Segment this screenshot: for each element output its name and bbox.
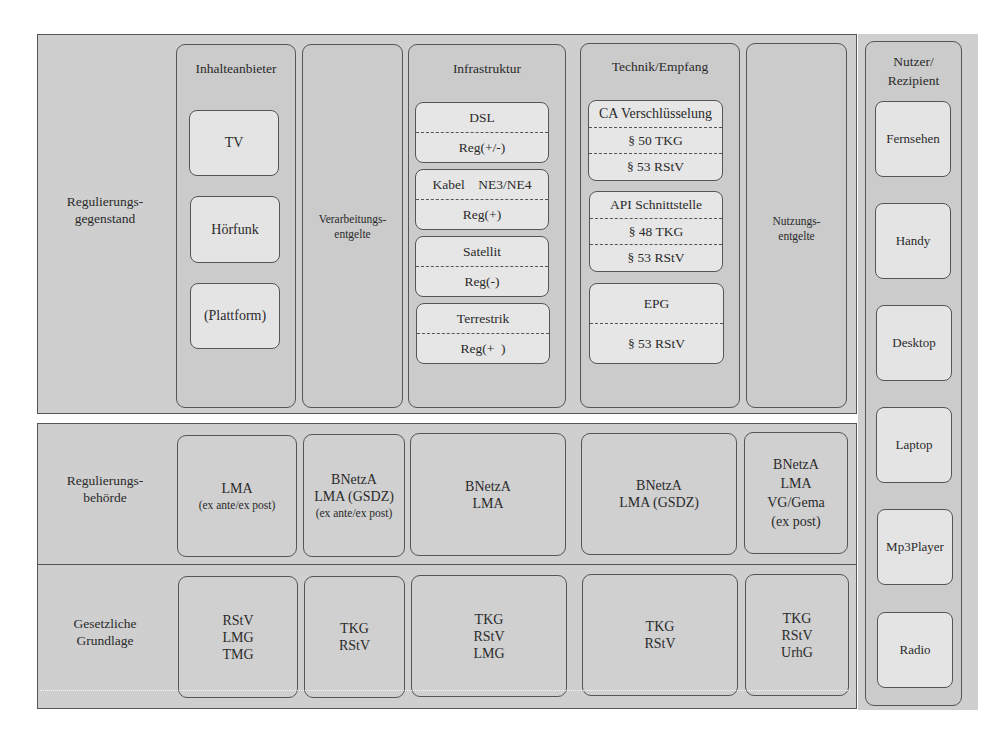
law-line: RStV	[339, 637, 370, 654]
infra-box-terrestrik: Terrestrik Reg(+ )	[416, 303, 550, 364]
law-tile-verarbeitung: TKG RStV	[304, 576, 405, 698]
device-box-mp3player: Mp3Player	[877, 509, 953, 585]
law-tile-nutzung: TKG RStV UrhG	[745, 574, 849, 696]
law-line: TKG	[646, 618, 675, 635]
column-title-technik-empfang: Technik/Empfang	[581, 59, 739, 75]
decorative-dotted-line	[40, 690, 850, 691]
authority-line: LMA	[221, 480, 252, 497]
tech-reference: § 53 RStV	[589, 153, 722, 180]
authority-line: BNetzA	[465, 478, 511, 495]
device-box-fernsehen: Fernsehen	[875, 101, 951, 177]
content-box-tv: TV	[189, 110, 279, 176]
tech-box-api-schnittstelle: API Schnittstelle § 48 TKG § 53 RStV	[589, 191, 723, 272]
authority-line: LMA (GSDZ)	[314, 488, 394, 505]
infra-name: DSL	[416, 103, 548, 132]
tech-reference: § 53 RStV	[590, 244, 722, 271]
authority-line: BNetzA	[331, 471, 377, 488]
authority-line: BNetzA	[773, 455, 819, 474]
tech-reference: § 53 RStV	[590, 323, 723, 363]
column-nutzungsentgelte: Nutzungs- entgelte	[746, 43, 847, 408]
column-title-infrastruktur: Infrastruktur	[409, 61, 565, 77]
row-label-regulierungsbehoerde: Regulierungs- behörde	[40, 464, 170, 514]
authority-tile-verarbeitung: BNetzA LMA (GSDZ) (ex ante/ex post)	[303, 434, 405, 557]
tech-reference: § 48 TKG	[590, 218, 722, 245]
law-line: RStV	[781, 627, 812, 644]
tech-box-ca-verschluesselung: CA Verschlüsselung § 50 TKG § 53 RStV	[588, 100, 723, 181]
device-box-handy: Handy	[875, 203, 951, 279]
authority-line: LMA (GSDZ)	[619, 494, 699, 511]
authority-tile-infrastruktur: BNetzA LMA	[410, 433, 566, 556]
law-line: LMG	[473, 645, 504, 662]
content-box-hoerfunk: Hörfunk	[190, 196, 280, 263]
infra-name: Kabel NE3/NE4	[416, 170, 548, 199]
authority-tile-technik: BNetzA LMA (GSDZ)	[581, 433, 737, 555]
law-line: TMG	[222, 646, 253, 663]
tech-name: EPG	[590, 284, 723, 323]
authority-note: (ex ante/ex post)	[199, 497, 276, 513]
row-label-gesetzliche-grundlage: Gesetzliche Grundlage	[40, 610, 170, 654]
infra-regulation: Reg(+/-)	[416, 132, 548, 162]
tech-box-epg: EPG § 53 RStV	[589, 283, 724, 364]
infra-box-satellit: Satellit Reg(-)	[415, 236, 549, 297]
law-line: LMG	[222, 629, 253, 646]
tech-reference: § 50 TKG	[589, 127, 722, 154]
row-label-regulierungsgegenstand: Regulierungs- gegenstand	[40, 180, 170, 240]
law-line: TKG	[340, 620, 369, 637]
law-tile-technik: TKG RStV	[582, 574, 738, 696]
column-title-inhalteanbieter: Inhalteanbieter	[177, 61, 295, 77]
tech-name: CA Verschlüsselung	[589, 101, 722, 127]
device-box-radio: Radio	[877, 612, 953, 688]
law-line: TKG	[783, 610, 812, 627]
law-tile-inhalteanbieter: RStV LMG TMG	[178, 576, 298, 698]
authority-line: LMA	[780, 474, 811, 493]
law-line: TKG	[475, 611, 504, 628]
infra-regulation: Reg(+ )	[417, 333, 549, 363]
device-box-desktop: Desktop	[876, 305, 952, 381]
law-line: RStV	[473, 628, 504, 645]
authority-line: (ex post)	[771, 512, 820, 531]
content-box-plattform: (Plattform)	[190, 283, 280, 349]
authority-line: LMA	[472, 495, 503, 512]
label-nutzungsentgelte: Nutzungs- entgelte	[747, 214, 846, 244]
authority-line: VG/Gema	[767, 493, 825, 512]
infra-regulation: Reg(-)	[416, 266, 548, 296]
law-line: RStV	[644, 635, 675, 652]
label-verarbeitungsentgelte: Verarbeitungs- entgelte	[303, 212, 402, 242]
law-tile-infrastruktur: TKG RStV LMG	[411, 575, 567, 697]
authority-note: (ex ante/ex post)	[316, 505, 393, 521]
infra-box-dsl: DSL Reg(+/-)	[415, 102, 549, 163]
column-title-nutzer-rezipient: Nutzer/ Rezipient	[866, 52, 961, 90]
infra-name: Terrestrik	[417, 304, 549, 333]
authority-tile-inhalteanbieter: LMA (ex ante/ex post)	[177, 435, 297, 557]
tech-name: API Schnittstelle	[590, 192, 722, 218]
device-box-laptop: Laptop	[876, 407, 952, 483]
law-line: RStV	[222, 612, 253, 629]
infra-name: Satellit	[416, 237, 548, 266]
authority-line: BNetzA	[636, 477, 682, 494]
infra-box-kabel: Kabel NE3/NE4 Reg(+)	[415, 169, 549, 230]
law-line: UrhG	[781, 644, 813, 661]
column-verarbeitungsentgelte: Verarbeitungs- entgelte	[302, 44, 403, 408]
infra-regulation: Reg(+)	[416, 199, 548, 229]
authority-tile-nutzung: BNetzA LMA VG/Gema (ex post)	[744, 432, 848, 554]
